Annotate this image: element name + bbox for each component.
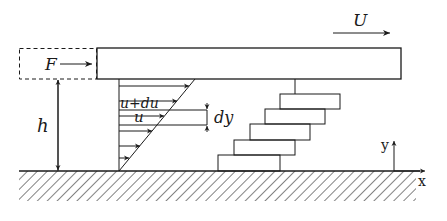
plate-velocity-label: U (353, 10, 368, 30)
y-axis-label: y (380, 137, 389, 153)
layer-thickness-label: dy (214, 108, 234, 127)
couette-flow-diagram: F U h u+du u dy (0, 0, 447, 221)
force-label: F (44, 54, 58, 74)
moving-plate (97, 48, 401, 79)
gap-height-label: h (37, 115, 49, 136)
ground-hatch (19, 171, 416, 201)
x-axis-label: x (418, 173, 426, 189)
fluid-layers (218, 79, 340, 171)
velocity-lower-label: u (134, 108, 144, 126)
